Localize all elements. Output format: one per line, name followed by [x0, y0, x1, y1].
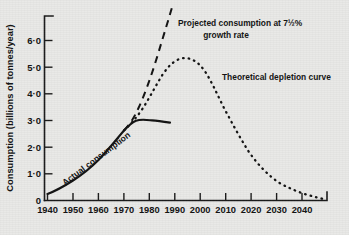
y-tick-marks: [45, 41, 53, 174]
theoretical-depletion-label: Theoretical depletion curve: [222, 72, 331, 82]
projected-consumption-annotation: Projected consumption at 7½% growth rate: [178, 18, 303, 40]
x-tick-label-1990: 1990: [164, 205, 185, 215]
series-projected-consumption: [124, 4, 173, 131]
x-tick-label-1980: 1980: [139, 205, 160, 215]
x-tick-label-2020: 2020: [241, 205, 262, 215]
y-axis-title: Consumption (billions of tonnes/year): [5, 24, 15, 191]
y-tick-label-3: 3·0: [27, 115, 41, 126]
x-tick-label-1950: 1950: [63, 205, 84, 215]
axes-group: [45, 16, 328, 201]
y-tick-label-2: 2·0: [27, 142, 41, 153]
x-tick-label-1970: 1970: [114, 205, 135, 215]
x-tick-label-2040: 2040: [292, 205, 313, 215]
x-tick-label-2010: 2010: [215, 205, 236, 215]
x-tick-labels: 1940 1950 1960 1970 1980 1990 2000 2010 …: [37, 205, 312, 215]
y-tick-labels: 6·0 5·0 4·0 3·0 2·0 1·0 0: [27, 35, 41, 206]
actual-consumption-label: Actual consumption: [60, 130, 132, 188]
x-tick-label-2030: 2030: [266, 205, 287, 215]
y-tick-label-6: 6·0: [27, 35, 41, 46]
projected-consumption-label-line2: growth rate: [203, 30, 249, 40]
chart-plot-area: 6·0 5·0 4·0 3·0 2·0 1·0 0 1940 1950 1: [0, 0, 349, 235]
chart-figure: 6·0 5·0 4·0 3·0 2·0 1·0 0 1940 1950 1: [0, 0, 349, 235]
projected-consumption-label-line1: Projected consumption at 7½%: [178, 18, 303, 28]
y-tick-label-4: 4·0: [27, 88, 41, 99]
y-tick-label-1: 1·0: [27, 168, 41, 179]
x-tick-label-2000: 2000: [190, 205, 211, 215]
y-tick-label-5: 5·0: [27, 62, 41, 73]
x-axis-line: [45, 192, 328, 201]
x-tick-label-1940: 1940: [37, 205, 58, 215]
x-tick-label-1960: 1960: [88, 205, 109, 215]
y-axis-line: [45, 16, 54, 201]
x-tick-marks: [48, 193, 303, 201]
